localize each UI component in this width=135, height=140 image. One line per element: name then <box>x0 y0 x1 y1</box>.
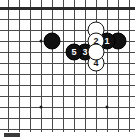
grid-line-horizontal <box>0 96 135 97</box>
stone-white[interactable] <box>88 44 105 61</box>
grid-line-vertical <box>85 0 86 132</box>
grid-line-horizontal <box>0 107 135 108</box>
stone-black[interactable] <box>44 33 61 50</box>
stone-move-number: 5 <box>71 47 76 56</box>
grid-line-vertical <box>30 0 31 132</box>
star-point <box>106 106 109 109</box>
grid-line-horizontal <box>0 74 135 75</box>
go-board[interactable]: 12345 <box>0 0 135 132</box>
grid-line-vertical <box>107 0 108 132</box>
grid-line-vertical <box>118 0 119 132</box>
grid-line-horizontal <box>0 129 135 130</box>
grid-line-vertical <box>52 0 53 132</box>
grid-line-vertical <box>129 0 130 132</box>
go-diagram: 12345 <box>0 0 135 140</box>
grid-line-vertical <box>8 0 9 132</box>
stone-move-5[interactable]: 5 <box>66 44 83 61</box>
grid-line-horizontal <box>0 118 135 119</box>
grid-line-vertical <box>74 0 75 132</box>
grid-line-horizontal <box>0 63 135 64</box>
grid-line-horizontal <box>0 30 135 31</box>
grid-line-vertical <box>63 0 64 132</box>
grid-line-vertical <box>19 0 20 132</box>
grid-line-horizontal <box>0 19 135 20</box>
star-point <box>40 106 43 109</box>
caption-marker <box>4 133 20 137</box>
board-top-edge <box>0 7 135 10</box>
star-point <box>40 40 43 43</box>
grid-line-vertical <box>41 0 42 132</box>
stone-move-number: 1 <box>104 36 109 45</box>
grid-line-horizontal <box>0 85 135 86</box>
